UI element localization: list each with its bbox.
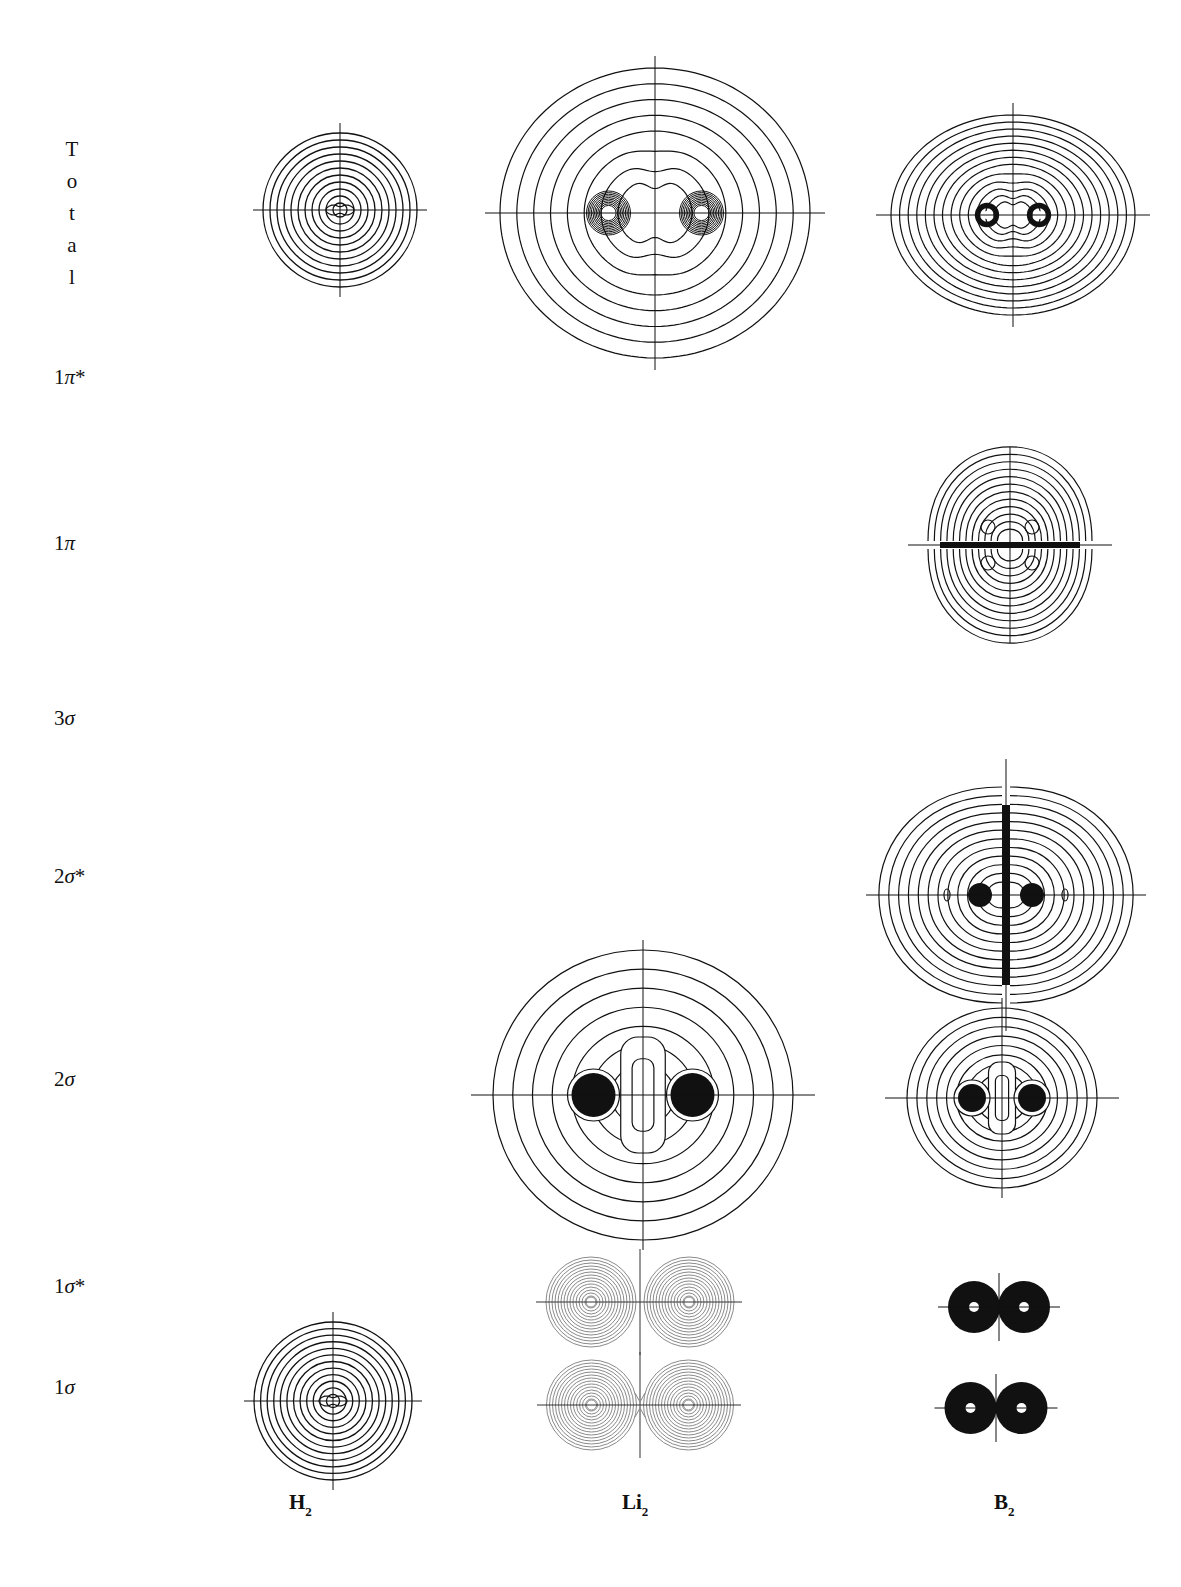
contour-plot-b2-2sigma [885, 998, 1119, 1198]
contour-plot-h2-1sigma [244, 1312, 422, 1490]
contour-plot-b2-1sigma [935, 1374, 1058, 1442]
contour-plot-canvas [0, 0, 1181, 1587]
contour-plot-li2-2sigma [471, 940, 815, 1250]
contour-plot-li2-1sigma [537, 1352, 741, 1458]
contour-plot-li2-total [485, 56, 825, 370]
contour-plot-b2-2sigma-star [866, 759, 1146, 1031]
contour-plot-h2-total [253, 123, 427, 297]
contour-plot-li2-1sigma-star [536, 1249, 742, 1355]
contour-plot-b2-1sigma-star [938, 1273, 1060, 1341]
contour-plot-b2-1pi [908, 447, 1112, 643]
contour-plot-b2-total [876, 103, 1150, 327]
